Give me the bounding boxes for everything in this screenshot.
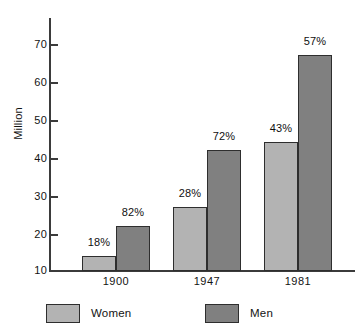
legend-item-men: Men [205, 302, 273, 324]
bar-men-1900 [116, 226, 150, 271]
plot-area: 18% 82% 28% 72% 43% 57% [49, 18, 355, 271]
bar-women-1981 [264, 142, 298, 271]
y-axis-tick-label-10: 10 [17, 265, 47, 276]
bar-men-1947 [207, 150, 241, 271]
legend-label-women: Women [91, 307, 131, 319]
y-axis-tick-label-30: 30 [17, 191, 47, 202]
y-axis-tick-label-50: 50 [17, 115, 47, 126]
legend-swatch-men [205, 304, 239, 323]
x-axis-label-1981: 1981 [268, 276, 328, 287]
legend-item-women: Women [46, 302, 131, 324]
legend: Women Men [0, 302, 363, 332]
x-axis-label-1947: 1947 [177, 276, 237, 287]
bar-value-men-1900: 82% [109, 207, 157, 218]
bar-women-1947 [173, 207, 207, 271]
bar-women-1900 [82, 256, 116, 271]
bar-chart: Million 70 60 50 40 30 20 10 18% 82% 28%… [0, 0, 363, 335]
x-axis-label-1900: 1900 [86, 276, 146, 287]
y-axis-tick-label-70: 70 [17, 39, 47, 50]
bar-men-1981 [298, 55, 332, 271]
y-axis-tick-label-20: 20 [17, 229, 47, 240]
y-axis-tick-label-60: 60 [17, 77, 47, 88]
legend-label-men: Men [250, 307, 273, 319]
y-axis-tick-label-40: 40 [17, 153, 47, 164]
legend-swatch-women [46, 304, 80, 323]
bar-value-men-1981: 57% [291, 36, 339, 47]
bar-value-men-1947: 72% [200, 131, 248, 142]
